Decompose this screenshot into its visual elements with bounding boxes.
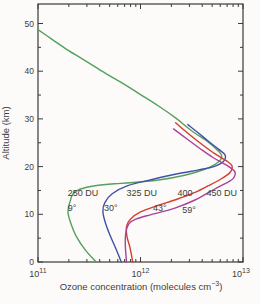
curve-annotation: 450 DU bbox=[207, 188, 238, 198]
curve-annotation: 30° bbox=[104, 203, 118, 213]
curve-annotation: 325 DU bbox=[127, 188, 158, 198]
x-axis-title-sup: −3 bbox=[211, 280, 219, 287]
x-tick-exp: 12 bbox=[142, 267, 150, 274]
y-tick-label: 0 bbox=[29, 257, 34, 267]
y-tick-label: 50 bbox=[25, 19, 35, 29]
ozone-profile-figure: Altitude (km) Ozone concentration (molec… bbox=[0, 0, 260, 304]
x-tick-base: 10 bbox=[232, 269, 242, 279]
plot-frame bbox=[38, 4, 243, 262]
curve-annotation: 43° bbox=[153, 203, 167, 213]
curve-annotation: 59° bbox=[182, 205, 196, 215]
curve-lat9 bbox=[38, 30, 222, 262]
y-tick-label: 10 bbox=[25, 209, 35, 219]
y-tick-label: 40 bbox=[25, 66, 35, 76]
curve-annotation: 9° bbox=[68, 203, 77, 213]
x-axis-title: Ozone concentration (molecules cm−3) bbox=[60, 280, 223, 292]
x-tick-exp: 11 bbox=[39, 267, 46, 274]
x-tick-label-1e11: 1011 bbox=[29, 267, 46, 279]
x-axis-title-pre: Ozone concentration (molecules cm bbox=[60, 281, 212, 292]
curve-annotation: 250 DU bbox=[68, 188, 99, 198]
curve-annotation: 400 bbox=[178, 188, 193, 198]
x-tick-exp: 13 bbox=[242, 267, 250, 274]
x-tick-base: 10 bbox=[29, 269, 39, 279]
y-axis-title: Altitude (km) bbox=[0, 106, 11, 159]
y-tick-label: 30 bbox=[25, 114, 35, 124]
ozone-profile-chart: Altitude (km) Ozone concentration (molec… bbox=[0, 0, 260, 304]
x-tick-label-1e13: 1013 bbox=[232, 267, 250, 279]
x-tick-base: 10 bbox=[132, 269, 142, 279]
x-tick-label-1e12: 1012 bbox=[132, 267, 150, 279]
y-tick-label: 20 bbox=[25, 162, 35, 172]
x-axis-title-post: ) bbox=[219, 281, 222, 292]
